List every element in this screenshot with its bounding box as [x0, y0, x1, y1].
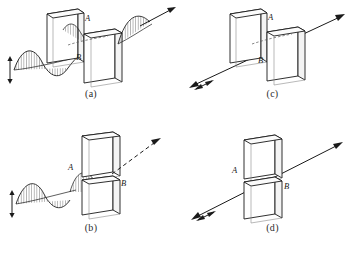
panel-b: A B (b) [0, 130, 182, 235]
caption-c: (c) [182, 88, 363, 99]
incoming-wave-b [16, 184, 76, 208]
polarization-double-arrow-b [9, 190, 14, 218]
label-polarizer-a: A [84, 13, 91, 23]
polarizer-plate-b [82, 176, 120, 219]
outgoing-wave-a [118, 16, 152, 44]
panel-c: A B (c) [182, 0, 363, 100]
label-polarizer-a: A [267, 12, 274, 22]
panel-a: A B (a [0, 0, 182, 100]
label-polarizer-a: A [231, 165, 238, 175]
polarizer-plate-b [244, 177, 282, 223]
outgoing-ray-arrow-a [140, 7, 176, 26]
caption-d: (d) [182, 222, 363, 233]
panel-d: A B (d) [182, 130, 363, 235]
label-polarizer-b: B [121, 178, 126, 188]
polarization-figure: A B (a [0, 0, 363, 265]
label-polarizer-b: B [76, 52, 81, 62]
caption-b: (b) [0, 222, 182, 233]
polarization-double-arrow-a [7, 56, 12, 84]
label-polarizer-b: B [258, 55, 263, 65]
label-polarizer-b: B [284, 181, 289, 191]
caption-a: (a) [0, 88, 182, 99]
polarizer-plate-a [82, 132, 120, 181]
label-polarizer-a: A [67, 162, 74, 172]
